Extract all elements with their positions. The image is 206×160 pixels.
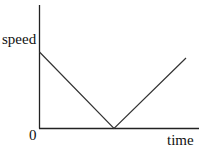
origin-label: 0 xyxy=(29,127,37,143)
y-axis-label: speed xyxy=(2,31,37,47)
speed-time-graph: speed 0 time xyxy=(0,0,206,160)
speed-line xyxy=(40,52,187,129)
x-axis-label: time xyxy=(167,132,194,148)
